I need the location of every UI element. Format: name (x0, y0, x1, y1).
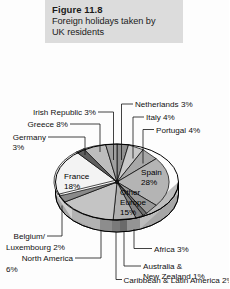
label-germany-line-2: 3% (13, 143, 25, 152)
depth-seg-north-america (100, 219, 112, 232)
label-germany-line-1: Germany (13, 133, 47, 142)
label-other-europe-line-1: Other (120, 188, 141, 197)
label-north-america-line-2: 6% (6, 265, 18, 274)
label-greece: Greece 8% (28, 120, 69, 129)
label-spain-line-1: Spain (141, 168, 162, 177)
pie-chart: Netherlands 3% Italy 4% Portugal 4% Iris… (0, 0, 229, 289)
label-irish-republic: Irish Republic 3% (33, 108, 96, 117)
figure-container: Figure 11.8 Foreign holidays taken by UK… (0, 0, 229, 289)
leader-africa (134, 229, 152, 249)
label-italy: Italy 4% (146, 113, 175, 122)
label-africa: Africa 3% (154, 245, 189, 254)
label-other-europe-line-2: Europe (120, 198, 147, 207)
depth-seg-australia (120, 219, 127, 232)
leader-north-america (75, 231, 101, 258)
label-belgium-line-1: Belgium/ (14, 232, 46, 241)
label-netherlands: Netherlands 3% (135, 100, 193, 109)
label-france-line-1: France (64, 172, 90, 181)
pie-center-hub (115, 180, 119, 184)
label-france-line-2: 18% (64, 182, 80, 191)
leader-caribbean (116, 232, 122, 280)
label-spain-line-2: 28% (141, 178, 157, 187)
label-north-america-line-1: North America (22, 254, 74, 263)
label-belgium-line-2: Luxembourg 2% (6, 243, 65, 252)
label-other-europe-line-3: 15% (120, 208, 136, 217)
label-caribbean: Caribbean & Latin America 2% (124, 276, 230, 285)
leader-belgium-luxembourg (47, 206, 62, 237)
label-portugal: Portugal 4% (156, 126, 200, 135)
label-australia-line-1: Australia & (143, 262, 183, 271)
depth-seg-caribbean (112, 220, 120, 232)
